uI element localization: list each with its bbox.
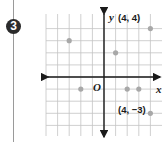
axes bbox=[48, 14, 160, 137]
origin-label: O bbox=[93, 81, 101, 93]
point-label-4-4: (4, 4) bbox=[118, 12, 140, 23]
data-point bbox=[148, 26, 153, 31]
data-point bbox=[148, 111, 153, 116]
point-label-4-neg3: (4, −3) bbox=[118, 104, 146, 115]
data-point bbox=[125, 87, 130, 92]
x-axis-label: x bbox=[155, 83, 162, 95]
data-point bbox=[136, 87, 141, 92]
coordinate-plane: y x O (4, 4) (4, −3) bbox=[0, 0, 168, 142]
data-points bbox=[67, 26, 153, 116]
data-point bbox=[78, 87, 83, 92]
data-point bbox=[67, 38, 72, 43]
data-point bbox=[113, 50, 118, 55]
y-axis-label: y bbox=[107, 11, 114, 23]
